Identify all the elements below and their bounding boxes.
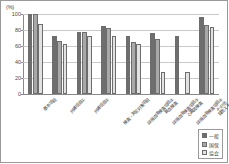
gridline-0 [23,94,219,95]
chart-legend: 一般国保協会 [198,129,224,159]
y-axis-unit-label: (%) [6,4,14,10]
bar-group [170,14,195,94]
bar-協会-0 [38,24,43,94]
bar-協会-4 [136,44,141,94]
legend-swatch-icon [202,150,207,155]
bar-group [23,14,48,94]
bar-group [97,14,122,94]
plot-area: 020406080100 [23,14,219,94]
bar-協会-7 [210,27,215,94]
legend-swatch-icon [202,133,207,138]
bar-国保-0 [33,14,38,94]
bar-国保-2 [82,32,87,94]
bar-協会-2 [87,36,92,94]
bar-一般-5 [150,33,155,94]
bar-一般-3 [101,26,106,94]
bar-group [121,14,146,94]
bar-一般-6 [175,36,180,94]
bar-国保-3 [106,28,111,94]
bar-一般-0 [28,14,33,94]
legend-label: 一般 [209,132,219,139]
bar-協会-1 [63,44,68,94]
bar-group [146,14,171,94]
bar-協会-5 [161,72,166,94]
bar-group [72,14,97,94]
x-axis-label-1: 共通項目① [68,97,85,114]
bar-一般-2 [77,32,82,94]
bar-協会-6 [185,72,190,94]
bar-group [48,14,73,94]
bar-国保-1 [57,41,62,94]
bar-一般-4 [126,36,131,94]
y-tick-label-100: 100 [12,11,21,17]
bar-国保-4 [131,42,136,94]
bar-一般-7 [199,17,204,94]
x-axis-label-0: 基本項目 [43,97,58,112]
chart-frame: (%) 020406080100 基本項目共通項目①共通項目②検査・測定対象項目… [0,0,228,163]
bar-国保-5 [155,39,160,94]
bar-協会-3 [112,36,117,94]
legend-item-一般: 一般 [202,132,220,139]
legend-label: 協会 [209,149,219,156]
legend-item-協会: 協会 [202,149,220,156]
bar-国保-7 [204,25,209,94]
legend-swatch-icon [202,142,207,147]
y-tick-mark-0 [21,94,23,95]
bar-group [195,14,220,94]
legend-label: 国保 [209,141,219,148]
legend-item-国保: 国保 [202,141,220,148]
bar-一般-1 [52,36,57,94]
x-axis-label-2: 共通項目② [93,97,110,114]
